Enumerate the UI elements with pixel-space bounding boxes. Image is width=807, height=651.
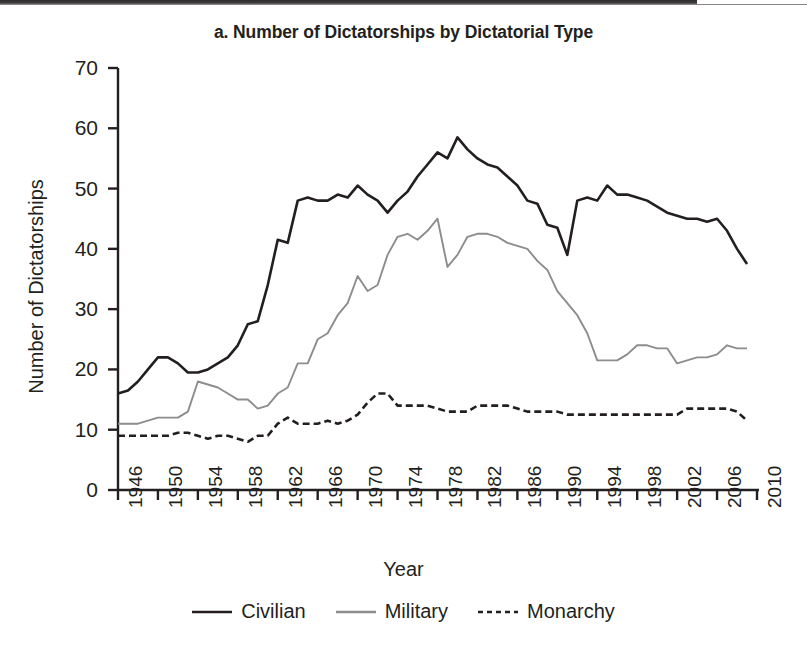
series-line-civilian	[118, 137, 747, 393]
legend-label: Military	[385, 600, 448, 623]
data-series-layer	[118, 137, 747, 441]
plot-area	[0, 0, 807, 651]
axis-lines	[108, 68, 759, 500]
chart-figure: a. Number of Dictatorships by Dictatoria…	[0, 0, 807, 651]
legend-item-military[interactable]: Military	[336, 600, 448, 623]
legend-label: Monarchy	[527, 600, 615, 623]
chart-legend: CivilianMilitaryMonarchy	[0, 600, 807, 623]
legend-item-monarchy[interactable]: Monarchy	[478, 600, 615, 623]
series-line-military	[118, 219, 747, 424]
series-line-monarchy	[118, 394, 747, 442]
legend-label: Civilian	[241, 600, 305, 623]
legend-swatch-civilian-icon	[192, 606, 232, 618]
legend-swatch-military-icon	[336, 606, 376, 618]
legend-swatch-monarchy-icon	[478, 606, 518, 618]
legend-item-civilian[interactable]: Civilian	[192, 600, 305, 623]
